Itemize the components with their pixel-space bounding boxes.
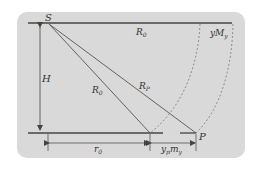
label-ymy: yMy xyxy=(209,28,228,40)
label-s: S xyxy=(45,12,52,23)
r0-line xyxy=(49,24,150,133)
rp-line xyxy=(49,24,196,133)
label-r0-line: R0 xyxy=(91,85,103,96)
dashed-curve-inner xyxy=(150,24,200,133)
dashed-curve-outer xyxy=(196,24,233,133)
label-r0-top: R0 xyxy=(135,27,147,38)
label-h: H xyxy=(41,73,51,84)
label-r0-dim: r0 xyxy=(94,144,102,155)
geometry-diagram: S P H R0 R0 RP yMy r0 ypmy xyxy=(0,0,256,169)
label-p: P xyxy=(198,131,206,142)
label-ypmy-dim: ypmy xyxy=(160,144,182,156)
label-rp-line: RP xyxy=(138,81,151,92)
